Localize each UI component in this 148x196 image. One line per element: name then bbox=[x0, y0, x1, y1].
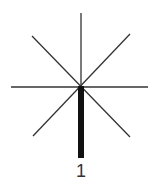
thick-bar bbox=[78, 86, 84, 158]
diagram-label: 1 bbox=[72, 160, 90, 182]
